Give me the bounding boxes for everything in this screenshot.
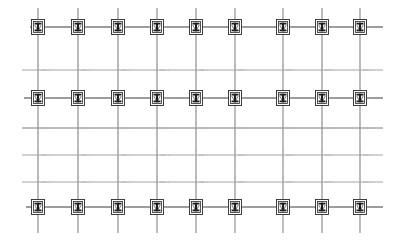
h-section-web [282, 23, 284, 32]
column-symbol-A7 [277, 20, 290, 35]
column-symbol-A6 [229, 20, 242, 35]
h-section-web [156, 203, 158, 212]
h-section-web [117, 203, 119, 212]
h-section-web [37, 203, 39, 212]
h-section-web [359, 94, 361, 103]
h-section-web [156, 94, 158, 103]
structural-plan-svg [0, 0, 397, 240]
cad-drawing-canvas [0, 0, 397, 240]
column-symbol-A8 [316, 20, 329, 35]
h-section-web [77, 203, 79, 212]
h-section-web [282, 203, 284, 212]
h-section-web [321, 23, 323, 32]
column-symbol-A9 [354, 20, 367, 35]
column-symbol-C2 [72, 91, 85, 106]
h-section-web [359, 23, 361, 32]
column-symbol-G8 [316, 200, 329, 215]
column-symbol-C3 [112, 91, 125, 106]
column-symbol-G1 [32, 200, 45, 215]
column-symbol-C6 [229, 91, 242, 106]
h-section-web [77, 94, 79, 103]
column-symbol-A1 [32, 20, 45, 35]
column-symbol-G3 [112, 200, 125, 215]
h-section-web [117, 23, 119, 32]
h-section-web [37, 23, 39, 32]
column-symbol-G5 [190, 200, 203, 215]
h-section-web [37, 94, 39, 103]
column-symbol-C1 [32, 91, 45, 106]
h-section-web [321, 94, 323, 103]
column-symbol-G9 [354, 200, 367, 215]
h-section-web [77, 23, 79, 32]
column-symbol-C7 [277, 91, 290, 106]
column-symbol-A5 [190, 20, 203, 35]
h-section-web [195, 23, 197, 32]
column-symbol-G4 [151, 200, 164, 215]
column-symbol-G6 [229, 200, 242, 215]
column-symbol-G2 [72, 200, 85, 215]
h-section-web [156, 23, 158, 32]
h-section-web [282, 94, 284, 103]
h-section-web [117, 94, 119, 103]
column-symbol-G7 [277, 200, 290, 215]
column-symbol-C5 [190, 91, 203, 106]
column-symbol-C9 [354, 91, 367, 106]
h-section-web [195, 203, 197, 212]
h-section-web [321, 203, 323, 212]
h-section-web [359, 203, 361, 212]
column-symbol-A4 [151, 20, 164, 35]
column-symbol-A2 [72, 20, 85, 35]
column-symbol-C4 [151, 91, 164, 106]
column-symbol-A3 [112, 20, 125, 35]
h-section-web [234, 23, 236, 32]
h-section-web [234, 94, 236, 103]
h-section-web [234, 203, 236, 212]
h-section-web [195, 94, 197, 103]
column-symbol-C8 [316, 91, 329, 106]
